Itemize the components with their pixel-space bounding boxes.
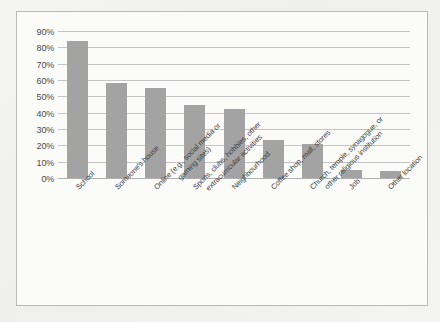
y-axis-tick-label: 90% bbox=[37, 27, 54, 37]
y-axis-tick-label: 10% bbox=[37, 158, 54, 168]
y-axis-tick-label: 80% bbox=[37, 43, 54, 53]
y-axis-tick-label: 50% bbox=[37, 92, 54, 102]
x-axis-labels: SchoolSomeone's houseOnline (e.g., socia… bbox=[58, 181, 410, 301]
screenshot-root: 0%10%20%30%40%50%60%70%80%90% SchoolSome… bbox=[0, 0, 440, 322]
y-axis-tick-label: 30% bbox=[37, 125, 54, 135]
y-axis-tick-label: 0% bbox=[41, 174, 54, 184]
y-axis-tick-label: 40% bbox=[37, 109, 54, 119]
y-axis-tick-label: 20% bbox=[37, 141, 54, 151]
bar bbox=[145, 88, 166, 178]
bar bbox=[106, 83, 127, 178]
bar bbox=[67, 41, 88, 178]
y-axis-tick-label: 70% bbox=[37, 60, 54, 70]
y-axis-tick-label: 60% bbox=[37, 76, 54, 86]
chart-frame: 0%10%20%30%40%50%60%70%80%90% SchoolSome… bbox=[16, 11, 428, 306]
chart-inner: 0%10%20%30%40%50%60%70%80%90% SchoolSome… bbox=[17, 12, 427, 305]
